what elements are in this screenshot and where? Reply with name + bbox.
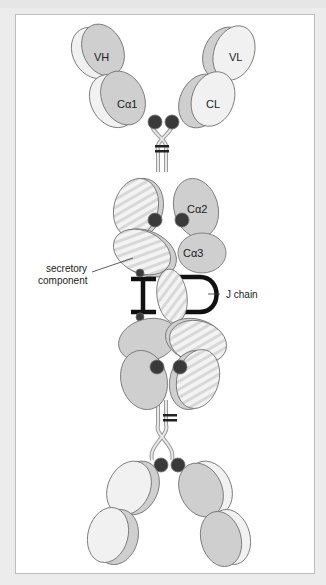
label-j-chain: J chain bbox=[226, 289, 258, 300]
label-vh: VH bbox=[94, 51, 109, 63]
label-secretory: secretory bbox=[46, 263, 87, 274]
label-vl: VL bbox=[229, 51, 242, 63]
label-ca2: Cα2 bbox=[187, 203, 207, 215]
iga-diagram: VH VL Cα1 CL Cα2 Cα3 secretory component… bbox=[0, 0, 326, 585]
label-component: component bbox=[38, 275, 88, 286]
label-cl: CL bbox=[206, 98, 220, 110]
label-ca1: Cα1 bbox=[117, 98, 137, 110]
label-ca3: Cα3 bbox=[183, 247, 203, 259]
